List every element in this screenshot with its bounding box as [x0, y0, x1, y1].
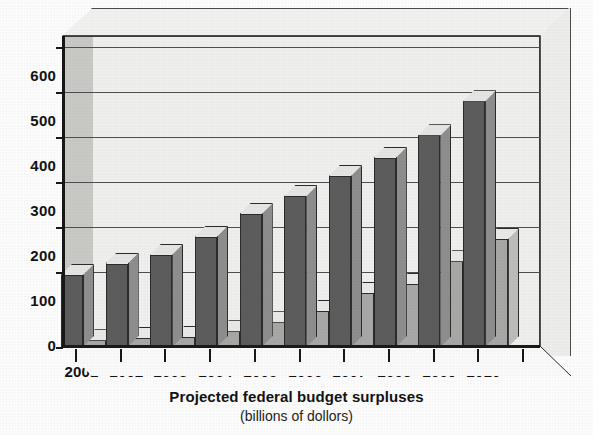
- y-axis-line: [62, 36, 65, 348]
- bar-2009-total-surplus: [418, 135, 440, 347]
- bar-side-face: [306, 185, 317, 347]
- x-axis-baseline: [62, 345, 540, 348]
- bar-chart: 0100200300400500600 20012002200320042005…: [0, 0, 593, 435]
- y-tick-mark: [56, 137, 63, 139]
- bar-front-face: [106, 264, 128, 347]
- bar-side-face: [262, 203, 273, 347]
- bar-front-face: [329, 176, 351, 347]
- y-axis-tick-labels: 0100200300400500600: [0, 0, 56, 435]
- x-tick-mark: [522, 349, 524, 362]
- bar-side-face: [172, 244, 183, 347]
- y-tick-label: 0: [8, 337, 56, 354]
- bar-side-face: [508, 228, 519, 347]
- y-tick-mark: [56, 182, 63, 184]
- bar-front-face: [418, 135, 440, 347]
- bar-2007-total-surplus: [329, 176, 351, 347]
- x-tick-mark: [75, 349, 77, 362]
- bar-front-face: [150, 255, 172, 347]
- bar-2006-total-surplus: [284, 196, 306, 347]
- x-tick-mark: [254, 349, 256, 362]
- bar-2004-total-surplus: [195, 237, 217, 347]
- y-tick-label: 300: [8, 202, 56, 219]
- y-tick-label: 500: [8, 112, 56, 129]
- bar-side-face: [485, 90, 496, 347]
- bar-front-face: [195, 237, 217, 347]
- plot-floor-right-edge: [540, 346, 572, 377]
- bar-side-face: [128, 253, 139, 347]
- bar-2010-total-surplus: [463, 101, 485, 347]
- x-tick-mark: [209, 349, 211, 362]
- y-tick-mark: [56, 272, 63, 274]
- bar-front-face: [284, 196, 306, 347]
- y-tick-label: 400: [8, 157, 56, 174]
- y-tick-mark: [56, 47, 63, 49]
- bar-2005-total-surplus: [240, 214, 262, 347]
- x-tick-mark: [477, 349, 479, 362]
- y-tick-label: 200: [8, 247, 56, 264]
- bar-2008-total-surplus: [374, 158, 396, 347]
- y-tick-label: 100: [8, 292, 56, 309]
- x-tick-mark: [120, 349, 122, 362]
- bar-side-face: [83, 264, 94, 347]
- bar-front-face: [374, 158, 396, 347]
- bar-2003-total-surplus: [150, 255, 172, 347]
- y-tick-mark: [56, 92, 63, 94]
- x-tick-mark: [388, 349, 390, 362]
- bar-front-face: [463, 101, 485, 347]
- bar-side-face: [440, 124, 451, 347]
- bar-front-face: [240, 214, 262, 347]
- y-tick-mark: [56, 227, 63, 229]
- x-tick-mark: [299, 349, 301, 362]
- y-tick-mark: [56, 347, 63, 349]
- bar-side-face: [396, 147, 407, 347]
- bar-2002-total-surplus: [106, 264, 128, 347]
- bar-side-face: [217, 226, 228, 347]
- y-tick-label: 600: [8, 67, 56, 84]
- bar-side-face: [351, 165, 362, 347]
- bar-series-layer: [0, 0, 593, 435]
- x-tick-mark: [343, 349, 345, 362]
- x-tick-mark: [433, 349, 435, 362]
- x-tick-mark: [164, 349, 166, 362]
